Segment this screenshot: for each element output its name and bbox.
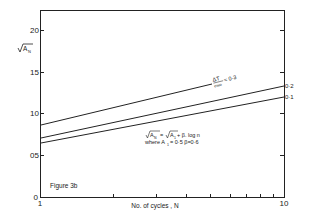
series-label-0.1: 0·1 [285,94,294,100]
svg-text:1: 1 [167,143,169,147]
figure-label: Figure 3b [50,182,78,190]
svg-text:=: = [160,132,163,138]
series-line-0.3 [41,84,212,125]
svg-text:N: N [28,49,31,54]
equation-annotation: A N = A 1 + β. log n where A 1 = 0·5 β=0… [144,131,200,147]
y-axis-label: A N [18,44,33,54]
svg-text:where A: where A [144,139,165,145]
svg-text:+ β. log n: + β. log n [177,132,200,138]
y-tick-label: 10 [30,109,39,118]
x-axis [114,194,274,197]
chart: 20 15 10 05 0 1 10 No. of cycles , N A N… [0,0,311,221]
series-label-0.3: ΔT σwo = 0·3 [212,71,238,88]
y-tick-label: 05 [30,151,39,160]
x-tick-label: 1 [38,199,43,208]
svg-text:= 0·5 β=0·6: = 0·5 β=0·6 [170,139,199,145]
x-tick-label: 10 [280,199,289,208]
y-tick-label: 15 [30,68,39,77]
y-tick-label: 20 [30,26,39,35]
svg-text:= 0·3: = 0·3 [223,74,237,83]
svg-text:σwo: σwo [214,82,223,89]
series-line-0.2 [41,86,284,138]
series-label-0.2: 0·2 [285,83,294,89]
x-axis-label: No. of cycles , N [131,202,179,210]
